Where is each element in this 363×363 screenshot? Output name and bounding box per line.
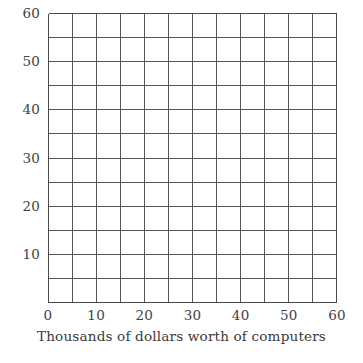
- y-tick-label: 50: [22, 55, 40, 69]
- y-tick-label: 20: [22, 200, 40, 214]
- x-tick-label: 50: [280, 309, 298, 323]
- x-axis-title: Thousands of dollars worth of computers: [0, 329, 363, 344]
- y-tick-label: 10: [22, 248, 40, 262]
- x-tick-label: 0: [44, 309, 53, 323]
- x-tick-label: 40: [232, 309, 250, 323]
- x-tick-label: 20: [136, 309, 154, 323]
- y-tick-label: 40: [22, 103, 40, 117]
- x-tick-label: 30: [184, 309, 202, 323]
- y-tick-label: 60: [22, 7, 40, 21]
- y-tick-label: 30: [22, 152, 40, 166]
- x-axis-tick-labels: 0102030405060: [0, 309, 363, 329]
- grid-group: [48, 13, 337, 303]
- x-tick-label: 10: [87, 309, 105, 323]
- x-tick-label: 60: [328, 309, 346, 323]
- plot-area: [48, 13, 337, 303]
- blank-coordinate-grid-chart: 605040302010 0102030405060 Thousands of …: [0, 0, 363, 363]
- grid-lines: [48, 13, 337, 303]
